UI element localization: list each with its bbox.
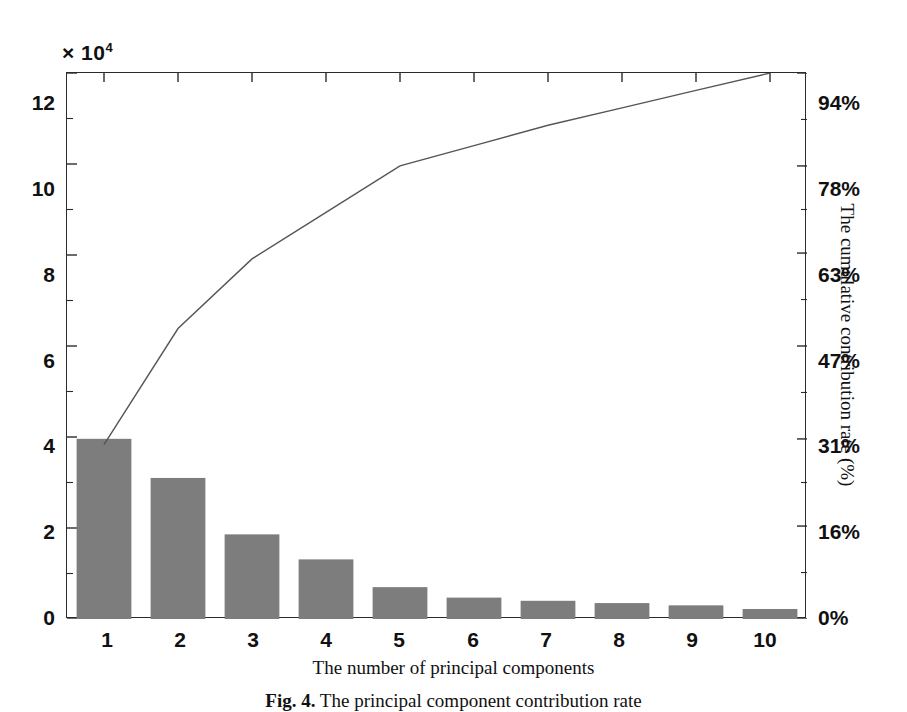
figure-caption: Fig. 4. The principal component contribu…: [0, 690, 907, 712]
chart-canvas: [67, 73, 807, 619]
bar-6: [447, 598, 502, 619]
x-tick-1: 1: [101, 628, 113, 652]
y-right-tick-94: 94%: [818, 91, 860, 115]
x-tick-6: 6: [467, 628, 479, 652]
plot-area: [66, 72, 806, 618]
bar-1: [77, 439, 132, 619]
y-left-tick-2: 2: [43, 520, 55, 544]
y-right-axis-title: The cumulative contribution rate (%): [836, 204, 858, 487]
y-left-tick-6: 6: [43, 349, 55, 373]
y-axis-exponent-label: × 104: [62, 40, 113, 65]
caption-text: The principal component contribution rat…: [320, 690, 642, 711]
x-tick-10: 10: [753, 628, 776, 652]
exponent-prefix: × 10: [62, 41, 105, 64]
cumulative-line-series: [104, 73, 770, 445]
bar-8: [595, 603, 650, 619]
bar-series: [77, 439, 798, 619]
bar-9: [669, 605, 724, 619]
exponent-power: 4: [105, 40, 113, 55]
caption-label: Fig. 4.: [265, 690, 315, 711]
y-left-tick-8: 8: [43, 263, 55, 287]
x-tick-9: 9: [686, 628, 698, 652]
y-left-tick-4: 4: [43, 434, 55, 458]
bar-4: [299, 559, 354, 619]
bar-3: [225, 534, 280, 619]
x-tick-5: 5: [393, 628, 405, 652]
bar-2: [151, 478, 206, 619]
y-right-tick-16: 16%: [818, 520, 860, 544]
bar-7: [521, 601, 576, 619]
y-right-tick-0: 0%: [818, 606, 848, 630]
x-tick-7: 7: [540, 628, 552, 652]
x-axis-title: The number of principal components: [0, 657, 907, 679]
y-left-tick-12: 12: [32, 91, 55, 115]
x-tick-8: 8: [613, 628, 625, 652]
y-left-tick-10: 10: [32, 177, 55, 201]
y-right-tick-78: 78%: [818, 177, 860, 201]
y-left-tick-0: 0: [43, 606, 55, 630]
x-tick-2: 2: [174, 628, 186, 652]
bar-5: [373, 587, 428, 619]
x-tick-3: 3: [247, 628, 259, 652]
x-tick-4: 4: [320, 628, 332, 652]
bar-10: [743, 609, 798, 619]
